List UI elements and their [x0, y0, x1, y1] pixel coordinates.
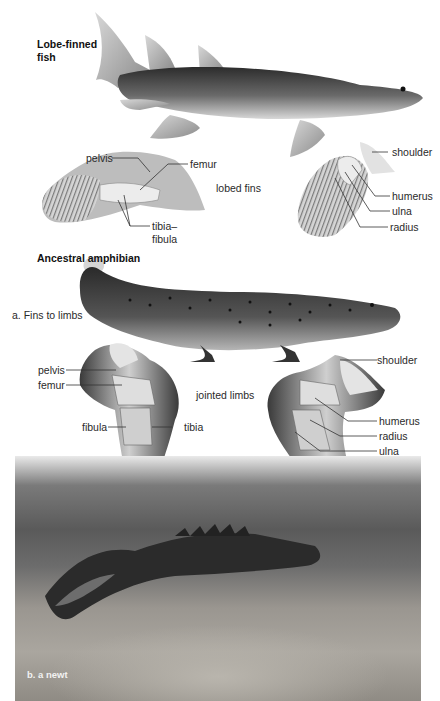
label-lobed-fins: lobed fins [216, 183, 261, 194]
lobe-finned-fish-title: Lobe-finned fish [37, 38, 97, 63]
panel-a-caption: a. Fins to limbs [12, 310, 83, 321]
label-fish-radius: radius [390, 222, 419, 233]
newt-photo [15, 456, 421, 701]
label-amph-radius: radius [379, 431, 408, 442]
hind-limb-illustration [80, 343, 179, 470]
label-fish-fibula: fibula [152, 234, 177, 245]
panel-b-caption: b. a newt [27, 669, 68, 680]
label-amph-ulna: ulna [379, 446, 399, 457]
title-line-2: fish [37, 51, 97, 64]
title-line-1: Lobe-finned [37, 38, 97, 51]
label-amph-fibula: fibula [82, 422, 107, 433]
label-fish-tibia: tibia– [152, 221, 177, 232]
label-amph-shoulder: shoulder [377, 355, 417, 366]
newt-silhouette [15, 456, 421, 701]
label-fish-humerus: humerus [392, 191, 433, 202]
label-fish-ulna: ulna [392, 206, 412, 217]
label-amph-tibia: tibia [184, 422, 203, 433]
fore-limb-illustration [268, 355, 385, 470]
label-amph-pelvis: pelvis [38, 365, 65, 376]
label-fish-shoulder: shoulder [392, 147, 432, 158]
ancestral-amphibian-title: Ancestral amphibian [37, 252, 140, 265]
label-jointed-limbs: jointed limbs [196, 390, 254, 401]
pectoral-lobed-fin-illustration [298, 142, 395, 237]
label-fish-femur: femur [190, 159, 217, 170]
label-amph-femur: femur [38, 380, 65, 391]
lobe-finned-fish-illustration [95, 12, 423, 157]
label-fish-pelvis: pelvis [86, 153, 113, 164]
label-amph-humerus: humerus [379, 416, 420, 427]
